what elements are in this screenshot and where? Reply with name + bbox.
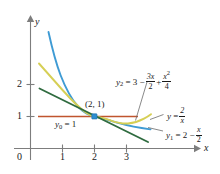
annotation-y-fraction-numerator: 2 (179, 107, 185, 115)
y-tick-label-1: 1 (17, 111, 22, 121)
plot-canvas (0, 0, 220, 174)
annotation-y-fraction-denominator: x (179, 117, 185, 125)
figure-graph-of-y-equals-2-over-x: y x 0 1 2 3 1 2 (2, 1) y0 = 1 y2 = 3 −3x… (0, 0, 220, 174)
annotation-y2-fraction-2: x24 (162, 70, 171, 91)
annotation-y1-subscript: 1 (170, 134, 173, 141)
annotation-y2-fraction-2-denominator: 4 (162, 83, 171, 91)
annotation-y1-fraction-numerator: x (196, 126, 202, 134)
annotation-y1-fraction-denominator: 2 (196, 136, 202, 144)
annotation-y2-operator-1: − (140, 77, 145, 87)
annotation-y2-fraction-1-numerator: 3x (146, 73, 156, 81)
y-axis-arrow (27, 15, 34, 22)
annotation-y-equals: = (173, 111, 178, 121)
annotation-y2: y2 = 3 −3x2+x24 (116, 70, 172, 91)
annotation-y0-rhs: 1 (72, 119, 77, 129)
x-tick-label-1: 1 (60, 152, 65, 162)
origin-label: 0 (17, 152, 22, 162)
annotation-y0-equals: = (65, 119, 70, 129)
annotation-y-lhs: y (167, 111, 171, 121)
x-tick-label-3: 3 (124, 152, 129, 162)
annotation-y2-subscript: 2 (120, 80, 123, 87)
annotation-y2-equals: = (126, 77, 131, 87)
annotation-y1-fraction: x2 (196, 126, 202, 144)
annotation-y1-equals: = (176, 130, 181, 140)
annotation-y2-fraction-1: 3x2 (146, 73, 156, 91)
y-axis-label: y (35, 17, 39, 27)
annotation-y2-fraction-2-exponent: 2 (167, 69, 170, 76)
annotation-y: y =2x (167, 107, 186, 125)
point-marker-2-1 (92, 114, 97, 119)
point-label-2-1: (2, 1) (85, 100, 105, 109)
x-axis-label: x (204, 143, 208, 153)
annotation-y2-operator-2: + (156, 77, 161, 87)
x-axis-arrow (194, 145, 201, 152)
annotation-y1-constant: 2 (183, 130, 188, 140)
annotation-y1-operator: − (190, 130, 195, 140)
annotation-y2-fraction-2-numerator: x2 (162, 70, 171, 81)
annotation-y2-fraction-1-denominator: 2 (146, 83, 156, 91)
leader-line-y (150, 115, 164, 120)
annotation-y2-constant: 3 (133, 77, 138, 87)
y-tick-label-2: 2 (17, 79, 22, 89)
x-tick-label-2: 2 (92, 152, 97, 162)
annotation-y0: y0 = 1 (55, 120, 76, 130)
annotation-y0-subscript: 0 (59, 123, 62, 130)
annotation-y-fraction: 2x (179, 107, 185, 125)
annotation-y1: y1 = 2 −x2 (166, 126, 203, 144)
